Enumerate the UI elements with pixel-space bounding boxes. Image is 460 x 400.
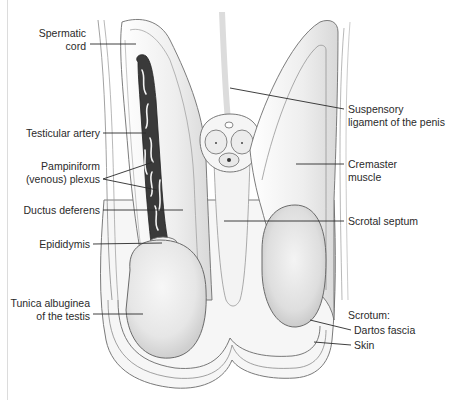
- label-pampiniform-plexus: Pampiniform (venous) plexus: [10, 160, 100, 186]
- label-line: Scrotal septum: [348, 215, 418, 228]
- label-skin: Skin: [354, 339, 374, 352]
- label-dartos-fascia: Dartos fascia: [354, 324, 415, 337]
- label-line: Cremaster: [348, 158, 397, 171]
- label-line: Suspensory: [348, 103, 445, 116]
- label-line: Epididymis: [10, 238, 90, 251]
- label-line: Testicular artery: [10, 127, 100, 140]
- label-cremaster-muscle: Cremaster muscle: [348, 158, 397, 184]
- right-testis: [262, 205, 326, 327]
- label-line: cord: [20, 40, 86, 53]
- label-line: Spermatic: [20, 27, 86, 40]
- scrotum-illustration: [0, 0, 460, 400]
- label-line: muscle: [348, 171, 397, 184]
- left-testis: [126, 240, 206, 358]
- label-tunica-albuginea: Tunica albuginea of the testis: [6, 297, 90, 323]
- label-spermatic-cord: Spermatic cord: [20, 27, 86, 53]
- label-line: (venous) plexus: [10, 173, 100, 186]
- label-scrotum: Scrotum:: [348, 309, 390, 322]
- label-line: ligament of the penis: [348, 116, 445, 129]
- label-scrotal-septum: Scrotal septum: [348, 215, 418, 228]
- label-epididymis: Epididymis: [10, 238, 90, 251]
- label-line: Ductus deferens: [10, 204, 100, 217]
- anatomy-figure: Spermatic cord Testicular artery Pampini…: [0, 0, 460, 400]
- label-line: Dartos fascia: [354, 324, 415, 337]
- penis-cross-section: [200, 114, 260, 172]
- label-suspensory-ligament: Suspensory ligament of the penis: [348, 103, 445, 129]
- label-testicular-artery: Testicular artery: [10, 127, 100, 140]
- label-line: Scrotum:: [348, 309, 390, 322]
- label-line: of the testis: [6, 310, 90, 323]
- label-line: Tunica albuginea: [6, 297, 90, 310]
- label-line: Pampiniform: [10, 160, 100, 173]
- label-ductus-deferens: Ductus deferens: [10, 204, 100, 217]
- label-line: Skin: [354, 339, 374, 352]
